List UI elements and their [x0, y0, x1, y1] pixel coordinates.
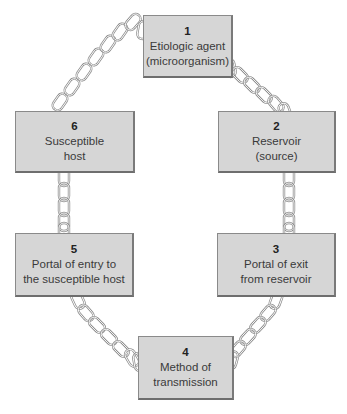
node-label-line: transmission: [153, 375, 218, 390]
node-number: 5: [71, 242, 77, 257]
node-4-method-of-transmission: 4 Method of transmission: [138, 336, 234, 400]
node-number: 6: [71, 119, 77, 134]
node-6-susceptible-host: 6 Susceptible host: [15, 111, 135, 173]
node-5-portal-of-entry: 5 Portal of entry to the susceptible hos…: [15, 233, 134, 297]
node-label-line: Method of: [160, 360, 211, 375]
node-label-line: host: [64, 149, 86, 164]
node-3-portal-of-exit: 3 Portal of exit from reservoir: [217, 233, 336, 297]
chain-6-to-5: [59, 168, 69, 241]
node-label-line: from reservoir: [241, 272, 312, 287]
node-number: 4: [182, 345, 188, 360]
node-label-line: Reservoir: [252, 134, 301, 149]
node-label-line: (source): [255, 149, 297, 164]
node-number: 2: [273, 119, 279, 134]
node-label-line: Portal of entry to: [32, 257, 116, 272]
node-number: 1: [184, 24, 190, 39]
node-label-line: (microorganism): [146, 54, 229, 69]
chain-2-to-3: [284, 168, 294, 241]
chain-5-to-4: [70, 290, 146, 372]
chain-6-to-1: [51, 12, 150, 112]
node-number: 3: [273, 242, 279, 257]
node-label-line: Etiologic agent: [150, 39, 225, 54]
node-1-etiologic-agent: 1 Etiologic agent (microorganism): [143, 15, 233, 78]
node-label-line: Susceptible: [45, 134, 104, 149]
node-label-line: Portal of exit: [244, 257, 308, 272]
node-label-line: the susceptible host: [23, 272, 125, 287]
node-2-reservoir: 2 Reservoir (source): [218, 111, 336, 173]
